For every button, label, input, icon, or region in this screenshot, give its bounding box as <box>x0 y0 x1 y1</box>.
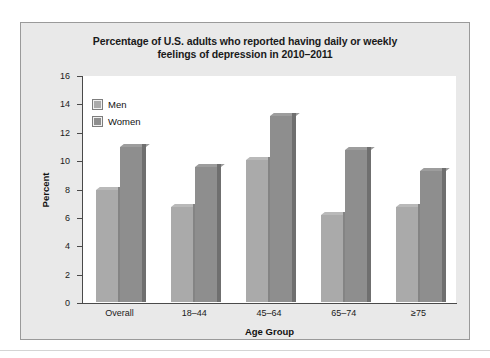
y-axis-tick: 6 <box>77 218 82 219</box>
legend-item-women: Women <box>93 116 141 127</box>
legend-label-men: Men <box>108 99 126 110</box>
x-axis-line <box>82 303 457 304</box>
x-axis-tick-label: ≥75 <box>411 308 426 318</box>
bar-men <box>396 207 418 302</box>
y-axis-line: 0246810121416 <box>82 76 83 304</box>
bar-women <box>120 147 142 302</box>
chart-legend: Men Women <box>93 99 141 133</box>
x-axis-tick-label: Overall <box>105 308 134 318</box>
legend-item-men: Men <box>93 99 141 110</box>
x-axis-label: Age Group <box>82 326 457 337</box>
bar-women <box>420 171 442 302</box>
y-axis-tick: 14 <box>77 104 82 105</box>
chart-title: Percentage of U.S. adults who reported h… <box>35 35 455 61</box>
y-axis-tick: 8 <box>77 190 82 191</box>
bar-men <box>171 207 193 302</box>
bar-side-face <box>442 168 446 302</box>
y-axis-tick-label: 12 <box>60 128 70 138</box>
legend-swatch-women-icon <box>93 117 102 126</box>
bar-men <box>246 160 268 302</box>
y-axis-tick-label: 0 <box>65 298 70 308</box>
chart-figure: Percentage of U.S. adults who reported h… <box>20 22 470 340</box>
y-axis-tick: 12 <box>77 133 82 134</box>
bar-women <box>195 167 217 302</box>
y-axis-tick: 10 <box>77 161 82 162</box>
x-axis-tick-label: 18–44 <box>182 308 207 318</box>
bar-side-face <box>292 113 296 302</box>
bar-women <box>345 150 367 302</box>
page-divider <box>0 350 490 351</box>
bar-side-face <box>217 164 221 302</box>
x-axis-tick-label: 65–74 <box>331 308 356 318</box>
y-axis-tick-label: 10 <box>60 156 70 166</box>
y-axis-tick: 4 <box>77 246 82 247</box>
legend-swatch-men-icon <box>93 100 102 109</box>
legend-label-women: Women <box>108 116 141 127</box>
y-axis-tick-label: 6 <box>65 213 70 223</box>
chart-title-line2: feelings of depression in 2010–2011 <box>35 48 455 61</box>
bar-men <box>321 215 343 302</box>
bar-men <box>96 190 118 302</box>
bar-women <box>270 116 292 302</box>
y-axis-tick-label: 8 <box>65 185 70 195</box>
y-axis-tick: 16 <box>77 76 82 77</box>
bar-side-face <box>142 144 146 302</box>
y-axis-tick: 2 <box>77 275 82 276</box>
y-axis-tick-label: 14 <box>60 99 70 109</box>
bar-side-face <box>367 147 371 302</box>
x-axis-tick-label: 45–64 <box>256 308 281 318</box>
chart-title-line1: Percentage of U.S. adults who reported h… <box>93 35 397 47</box>
y-axis-tick-label: 4 <box>65 241 70 251</box>
y-axis-label: Percent <box>40 173 51 208</box>
y-axis-tick-label: 2 <box>65 270 70 280</box>
y-axis-tick-label: 16 <box>60 71 70 81</box>
